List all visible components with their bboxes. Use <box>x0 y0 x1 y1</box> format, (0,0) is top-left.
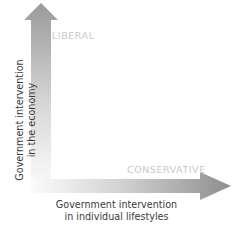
y-axis-caption: Government intervention in the economy <box>14 50 39 190</box>
x-axis-caption: Government intervention in individual li… <box>0 199 233 224</box>
x-axis-caption-line1: Government intervention <box>0 199 233 211</box>
y-axis-caption-line2: in the economy <box>26 50 38 190</box>
liberal-label: LIBERAL <box>52 30 94 41</box>
horizontal-arrow <box>31 172 231 200</box>
diagram-canvas: LIBERAL CONSERVATIVE Government interven… <box>0 0 233 230</box>
conservative-label: CONSERVATIVE <box>127 164 206 175</box>
y-axis-caption-line1: Government intervention <box>14 50 26 190</box>
x-axis-caption-line2: in individual lifestyles <box>0 211 233 223</box>
